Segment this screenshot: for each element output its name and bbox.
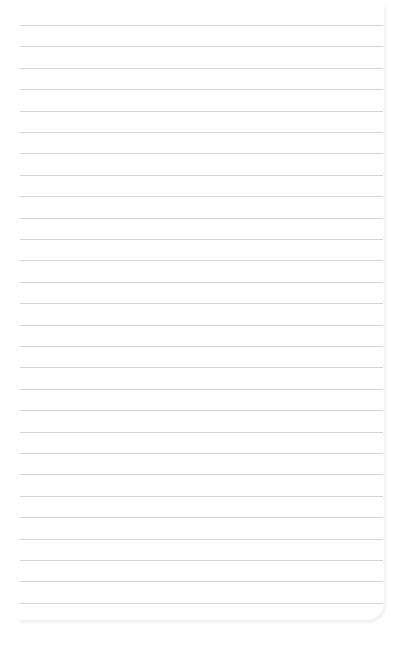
ruled-line	[20, 303, 383, 304]
ruled-line	[20, 132, 383, 133]
ruled-line	[20, 218, 383, 219]
ruled-line	[20, 153, 383, 154]
ruled-line	[20, 239, 383, 240]
ruled-line	[20, 389, 383, 390]
ruled-line	[20, 46, 383, 47]
ruled-line	[20, 453, 383, 454]
paper-sheet	[18, 4, 384, 620]
ruled-line	[20, 517, 383, 518]
ruled-line	[20, 175, 383, 176]
ruled-line	[20, 25, 383, 26]
ruled-line	[20, 474, 383, 475]
ruled-line	[20, 282, 383, 283]
ruled-line	[20, 89, 383, 90]
ruled-line	[20, 111, 383, 112]
ruled-line	[20, 260, 383, 261]
ruled-line	[20, 68, 383, 69]
ruled-line	[20, 581, 383, 582]
ruled-line	[20, 410, 383, 411]
ruled-line	[20, 346, 383, 347]
ruled-line	[20, 325, 383, 326]
ruled-line	[20, 496, 383, 497]
ruled-line	[20, 367, 383, 368]
ruled-line	[20, 196, 383, 197]
ruled-line	[20, 603, 383, 604]
ruled-line	[20, 560, 383, 561]
ruled-line	[20, 539, 383, 540]
ruled-line	[20, 432, 383, 433]
